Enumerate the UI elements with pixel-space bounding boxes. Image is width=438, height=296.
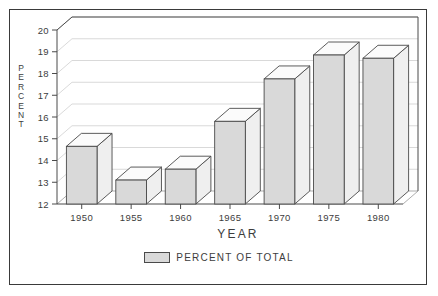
x-tick-label: 1965 (219, 212, 242, 223)
bar-1970 (264, 66, 310, 204)
y-tick-label: 20 (38, 25, 49, 36)
bar-front-face (66, 146, 97, 204)
gridline-y-depth (57, 82, 72, 95)
x-tick-label: 1955 (120, 212, 143, 223)
bar-side-face (344, 42, 359, 204)
bar-front-face (215, 121, 246, 204)
x-axis-ticks: 1950195519601965197019751980 (70, 204, 389, 223)
x-tick-label: 1970 (268, 212, 291, 223)
gridline-y-depth (57, 39, 72, 52)
gridline-y-depth (57, 61, 72, 74)
bar-1980 (363, 45, 409, 204)
y-tick-label: 18 (38, 68, 49, 79)
bar-1955 (116, 167, 162, 204)
y-axis-title-letter: T (15, 120, 27, 129)
y-tick-label: 12 (38, 199, 49, 210)
bars-group (66, 42, 408, 204)
bar-front-face (363, 58, 394, 204)
y-tick-label: 19 (38, 46, 49, 57)
x-tick-label: 1960 (169, 212, 192, 223)
bar-1965 (215, 108, 261, 204)
legend-swatch-percent-of-total (144, 252, 170, 263)
bar-1975 (314, 42, 360, 204)
bar-front-face (314, 55, 345, 204)
bar-side-face (295, 66, 310, 204)
bar-1950 (66, 133, 112, 204)
y-tick-label: 15 (38, 133, 49, 144)
legend: PERCENT OF TOTAL (0, 252, 438, 263)
gridline-y-depth (57, 126, 72, 139)
y-axis-ticks: 121314151617181920 (38, 25, 57, 210)
x-tick-label: 1975 (317, 212, 340, 223)
bar-side-face (245, 108, 260, 204)
x-axis-title: YEAR (217, 227, 258, 241)
bar-front-face (165, 169, 196, 204)
chart-figure: 121314151617181920 195019551960196519701… (0, 0, 438, 296)
gridline-y-depth (57, 104, 72, 117)
y-tick-label: 16 (38, 112, 49, 123)
bar-1960 (165, 156, 211, 204)
y-tick-label: 13 (38, 177, 49, 188)
legend-label-percent-of-total: PERCENT OF TOTAL (176, 252, 293, 263)
bar-front-face (116, 180, 147, 204)
y-axis-title: PERCENT (15, 64, 27, 130)
x-tick-label: 1980 (367, 212, 390, 223)
y-tick-label: 17 (38, 90, 49, 101)
bar-front-face (264, 79, 295, 204)
y-tick-label: 14 (38, 155, 49, 166)
bar-side-face (394, 45, 409, 204)
x-tick-label: 1950 (70, 212, 93, 223)
